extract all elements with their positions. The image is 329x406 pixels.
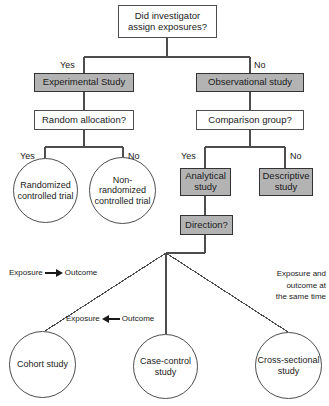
node-observational-study-label: Observational study — [208, 77, 292, 88]
node-randomized-controlled-trial-label: Randomized controlled trial — [14, 180, 77, 200]
node-case-control-study[interactable]: Case-control study — [133, 334, 198, 399]
arrow-right-icon — [45, 269, 63, 277]
node-root-question-label: Did investigator assign exposures? — [121, 11, 214, 32]
node-root-question[interactable]: Did investigator assign exposures? — [118, 5, 217, 38]
node-case-control-study-label: Case-control study — [134, 356, 197, 376]
direction-label-case-control: Exposure Outcome — [66, 314, 154, 323]
node-experimental-study[interactable]: Experimental Study — [34, 73, 134, 92]
node-experimental-study-label: Experimental Study — [43, 77, 125, 88]
node-analytical-study[interactable]: Analytical study — [180, 168, 231, 196]
node-direction[interactable]: Direction? — [180, 215, 233, 235]
direction-label-case-control-from: Exposure — [66, 314, 100, 323]
node-descriptive-study[interactable]: Descriptive study — [259, 168, 313, 196]
direction-label-cohort-to: Outcome — [65, 268, 97, 277]
node-randomized-controlled-trial[interactable]: Randomized controlled trial — [13, 158, 78, 223]
node-non-randomized-controlled-trial[interactable]: Non-randomized controlled trial — [89, 157, 156, 224]
node-random-allocation[interactable]: Random allocation? — [34, 110, 134, 130]
node-cohort-study[interactable]: Cohort study — [9, 331, 76, 398]
branch-label-root-yes: Yes — [60, 60, 75, 70]
node-observational-study[interactable]: Observational study — [196, 73, 304, 92]
node-cohort-study-label: Cohort study — [17, 359, 68, 369]
branch-label-random-allocation-no: No — [128, 151, 140, 161]
branch-label-random-allocation-yes: Yes — [20, 151, 35, 161]
node-analytical-study-label: Analytical study — [183, 171, 228, 192]
node-cross-sectional-study[interactable]: Cross-sectional study — [255, 332, 322, 399]
direction-label-cross-sectional: Exposure and outcome at the same time — [221, 268, 326, 303]
node-direction-label: Direction? — [185, 220, 228, 231]
node-comparison-group[interactable]: Comparison group? — [196, 110, 304, 130]
branch-label-comparison-group-yes: Yes — [181, 151, 196, 161]
branch-label-comparison-group-no: No — [290, 151, 302, 161]
study-design-flowchart: Did investigator assign exposures? Yes N… — [0, 0, 329, 406]
node-cross-sectional-study-label: Cross-sectional study — [256, 355, 321, 375]
node-non-randomized-controlled-trial-label: Non-randomized controlled trial — [90, 175, 155, 205]
direction-label-cross-sectional-line3: the same time — [221, 291, 326, 303]
arrow-left-icon — [102, 315, 120, 323]
branch-label-root-no: No — [254, 60, 266, 70]
direction-label-cohort: Exposure Outcome — [9, 268, 97, 277]
direction-label-case-control-to: Outcome — [122, 314, 154, 323]
node-random-allocation-label: Random allocation? — [42, 115, 126, 126]
direction-label-cohort-from: Exposure — [9, 268, 43, 277]
direction-label-cross-sectional-line1: Exposure and — [221, 268, 326, 280]
node-descriptive-study-label: Descriptive study — [262, 171, 310, 192]
node-comparison-group-label: Comparison group? — [208, 115, 291, 126]
direction-label-cross-sectional-line2: outcome at — [221, 280, 326, 292]
